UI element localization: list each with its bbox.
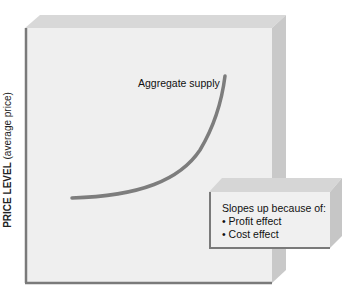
- callout-bullet-cost: • Cost effect: [222, 228, 326, 241]
- callout-top-face: [209, 178, 342, 192]
- y-axis-label-rest: (average price): [2, 92, 13, 162]
- callout-text: Slopes up because of: • Profit effect • …: [222, 202, 326, 241]
- diagram-graphics: [0, 0, 350, 296]
- aggregate-supply-diagram: PRICE LEVEL (average price) Aggregate su…: [0, 0, 350, 296]
- curve-label: Aggregate supply: [138, 77, 220, 89]
- y-axis-label: PRICE LEVEL (average price): [2, 85, 16, 235]
- callout-heading: Slopes up because of:: [222, 202, 326, 215]
- callout-bullet-profit: • Profit effect: [222, 215, 326, 228]
- panel-top-face: [25, 15, 286, 28]
- y-axis-label-bold: PRICE LEVEL: [2, 162, 13, 228]
